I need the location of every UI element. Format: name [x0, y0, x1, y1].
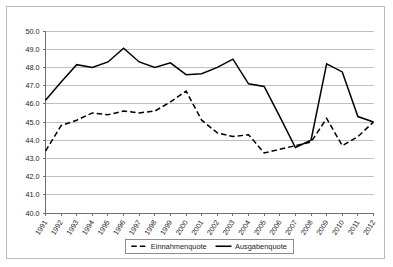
x-tick-label: 2012 — [361, 218, 377, 236]
y-tick-label: 50.0 — [26, 27, 40, 36]
x-tick-label: 1999 — [158, 218, 174, 236]
y-tick-label: 48.0 — [26, 63, 40, 72]
y-tick-label: 41.0 — [26, 190, 40, 199]
x-axis-labels: 1991199219931994199519961997199819992000… — [33, 218, 377, 236]
legend-label-ausgabenquote: Ausgabenquote — [235, 242, 287, 251]
y-tick-label: 40.0 — [26, 209, 40, 218]
x-tick-label: 1998 — [142, 218, 158, 236]
x-tick-label: 2004 — [236, 218, 252, 236]
x-tick-label: 1992 — [49, 218, 65, 236]
x-tick-label: 1994 — [80, 218, 96, 236]
x-tick-label: 2000 — [174, 218, 190, 236]
x-tick-label: 2011 — [346, 218, 362, 236]
y-tick-label: 49.0 — [26, 45, 40, 54]
x-tick-label: 2009 — [314, 218, 330, 236]
x-tick-label: 2010 — [330, 218, 346, 236]
x-tick-label: 2007 — [283, 218, 299, 236]
gridline-group — [46, 31, 374, 195]
x-tick-label: 1993 — [64, 218, 80, 236]
y-tick-label: 43.0 — [26, 154, 40, 163]
chart-frame: 50.049.048.047.046.045.044.043.042.041.0… — [6, 6, 385, 259]
y-tick-label: 44.0 — [26, 136, 40, 145]
y-tick-label: 46.0 — [26, 99, 40, 108]
line-chart: 50.049.048.047.046.045.044.043.042.041.0… — [7, 7, 384, 258]
x-tick-label: 2003 — [221, 218, 237, 236]
x-tick-label: 2005 — [252, 218, 268, 236]
series-group — [46, 48, 374, 153]
y-tick-label: 47.0 — [26, 81, 40, 90]
x-tick-label: 1995 — [96, 218, 112, 236]
y-tick-label: 45.0 — [26, 118, 40, 127]
chart-legend: EinnahmenquoteAusgabenquote — [125, 240, 293, 254]
legend-label-einnahmenquote: Einnahmenquote — [151, 242, 207, 251]
x-tick-label: 1997 — [127, 218, 143, 236]
x-tick-label: 2002 — [205, 218, 221, 236]
x-tick-label: 2008 — [299, 218, 315, 236]
x-tick-label: 1991 — [33, 218, 49, 236]
y-axis-labels: 50.049.048.047.046.045.044.043.042.041.0… — [26, 27, 40, 218]
x-tick-label: 2006 — [267, 218, 283, 236]
x-tick-label: 2001 — [189, 218, 205, 236]
series-line-ausgabenquote — [46, 48, 374, 147]
y-tick-label: 42.0 — [26, 172, 40, 181]
x-tick-label: 1996 — [111, 218, 127, 236]
